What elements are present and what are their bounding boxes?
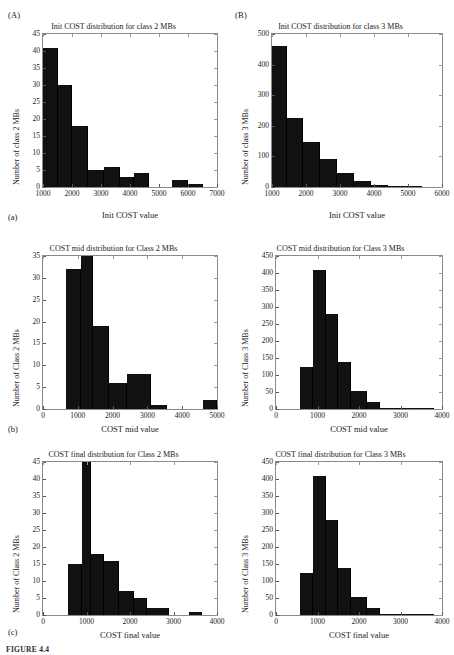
x-tick-label: 3000 (166, 618, 181, 626)
y-tick-mark-right (214, 479, 217, 480)
y-tick-mark (43, 278, 46, 279)
x-tick-label: 2000 (65, 190, 80, 198)
figure-caption: FIGURE 4.4 (6, 645, 49, 654)
x-tick-mark-top (276, 256, 277, 259)
x-tick-label: 2000 (123, 618, 138, 626)
y-tick-mark (43, 409, 46, 410)
x-tick-mark (359, 612, 360, 615)
x-tick-mark (78, 406, 79, 409)
y-tick-mark-right (214, 51, 217, 52)
x-tick-mark-top (401, 256, 402, 259)
y-tick-mark-right (439, 581, 442, 582)
x-tick-mark-top (43, 34, 44, 37)
y-tick-label: 30 (33, 509, 41, 517)
x-tick-mark-top (306, 34, 307, 37)
y-tick-label: 0 (269, 405, 273, 413)
histogram-bar (66, 269, 82, 409)
y-tick-mark (43, 136, 46, 137)
y-tick-mark-right (439, 564, 442, 565)
y-tick-mark (276, 409, 279, 410)
x-tick-mark-top (442, 256, 443, 259)
histogram-bar (134, 598, 147, 615)
panel-init-class3: Init COST distribution for class 3 MBs 0… (227, 0, 454, 215)
x-tick-mark (87, 612, 88, 615)
histogram-bar (188, 184, 203, 187)
y-tick-mark (43, 387, 46, 388)
x-tick-mark (217, 612, 218, 615)
x-tick-mark (272, 184, 273, 187)
y-tick-mark (276, 615, 279, 616)
histogram-bar (367, 608, 379, 615)
y-tick-mark-right (439, 126, 442, 127)
y-tick-mark-right (439, 409, 442, 410)
y-tick-label: 250 (262, 526, 273, 534)
y-axis-label: Number of Class 2 MBs (12, 329, 21, 407)
x-tick-label: 2000 (352, 618, 367, 626)
x-tick-mark (174, 612, 175, 615)
y-tick-mark (276, 307, 279, 308)
panel-mid-class2: COST mid distribution for Class 2 MBs 05… (0, 215, 227, 430)
plot-area-final-class2: 05101520253035404501000200030004000 (42, 461, 218, 616)
y-axis-label: Number of class 2 MBs (12, 109, 21, 185)
y-tick-mark (43, 102, 46, 103)
x-tick-label: 4000 (367, 190, 382, 198)
y-tick-label: 25 (33, 526, 41, 534)
x-tick-mark (401, 612, 402, 615)
histogram-bar (104, 561, 119, 615)
x-tick-label: 4000 (123, 190, 138, 198)
y-tick-label: 20 (33, 115, 41, 123)
y-tick-label: 200 (258, 122, 269, 130)
y-tick-mark (43, 51, 46, 52)
x-tick-mark (340, 184, 341, 187)
x-tick-mark-top (359, 256, 360, 259)
x-tick-mark (318, 406, 319, 409)
y-tick-mark (43, 598, 46, 599)
histogram-bar (81, 256, 93, 409)
histogram-bar (68, 564, 82, 615)
y-tick-label: 350 (262, 286, 273, 294)
y-tick-mark (272, 187, 275, 188)
y-tick-mark-right (214, 278, 217, 279)
x-tick-label: 4000 (435, 412, 450, 420)
y-tick-mark (43, 153, 46, 154)
x-tick-mark-top (72, 34, 73, 37)
y-tick-label: 200 (262, 337, 273, 345)
y-tick-mark-right (439, 307, 442, 308)
x-tick-mark-top (78, 256, 79, 259)
x-tick-label: 2000 (105, 412, 120, 420)
histogram-bar (380, 614, 417, 615)
histogram-bar (287, 118, 302, 187)
y-tick-mark-right (214, 564, 217, 565)
y-tick-mark (272, 95, 275, 96)
y-tick-mark-right (439, 375, 442, 376)
y-tick-mark (43, 343, 46, 344)
x-tick-mark-top (130, 462, 131, 465)
y-tick-mark-right (439, 341, 442, 342)
y-tick-mark (272, 156, 275, 157)
x-tick-mark (43, 612, 44, 615)
x-tick-mark (318, 612, 319, 615)
x-tick-mark (159, 184, 160, 187)
histogram-bar (354, 181, 371, 187)
histogram-bar (300, 573, 313, 615)
x-tick-mark-top (374, 34, 375, 37)
x-tick-label: 0 (41, 618, 45, 626)
x-axis-label: COST final value (42, 630, 218, 640)
y-tick-label: 10 (33, 577, 41, 585)
y-tick-label: 500 (258, 30, 269, 38)
y-tick-label: 15 (33, 132, 41, 140)
x-tick-mark (374, 184, 375, 187)
histogram-bar (203, 400, 217, 409)
figure-page: (A) (B) (a) (b) (c) Init COST distributi… (0, 0, 454, 655)
x-tick-mark-top (87, 462, 88, 465)
x-tick-label: 1000 (265, 190, 280, 198)
y-tick-mark (276, 358, 279, 359)
y-tick-label: 25 (33, 98, 41, 106)
x-tick-label: 0 (274, 412, 278, 420)
x-tick-mark-top (359, 462, 360, 465)
y-tick-mark (276, 392, 279, 393)
x-tick-mark (442, 184, 443, 187)
histogram-bar (272, 46, 287, 187)
histogram-bar (104, 167, 120, 187)
y-tick-mark-right (214, 119, 217, 120)
